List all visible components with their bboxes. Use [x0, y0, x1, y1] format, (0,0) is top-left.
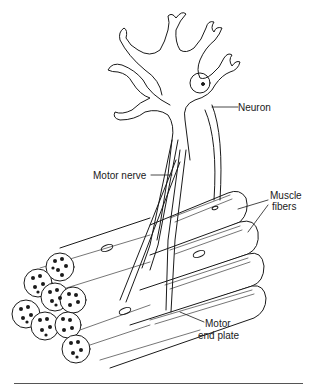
- label-motor-end-plate-line2: end plate: [198, 330, 239, 341]
- label-muscle-fibers-line2: fibers: [272, 201, 296, 212]
- label-muscle-fibers-line1: Muscle: [270, 190, 302, 201]
- diagram-canvas: Neuron Motor nerve Muscle fibers Motor e…: [0, 0, 317, 390]
- label-neuron: Neuron: [238, 102, 271, 113]
- label-motor-end-plate-line1: Motor: [205, 318, 231, 329]
- bottom-divider: [14, 383, 303, 384]
- fiber-cross-sections: [12, 253, 90, 363]
- muscle-fiber-bundle: [12, 191, 266, 368]
- label-motor-nerve: Motor nerve: [93, 170, 146, 181]
